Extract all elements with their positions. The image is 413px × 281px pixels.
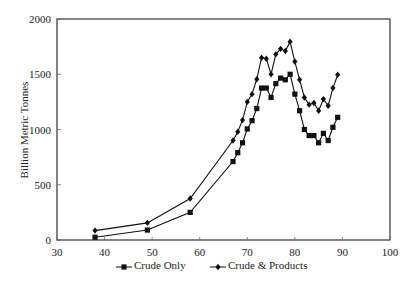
plot-frame: [57, 19, 390, 240]
data-point-square: [288, 72, 293, 77]
data-point-square: [264, 85, 269, 90]
data-point-square: [240, 140, 245, 145]
x-tick-label: 80: [289, 246, 301, 258]
data-point-square: [268, 95, 273, 100]
data-point-diamond: [240, 117, 245, 123]
y-tick-label: 2000: [29, 13, 52, 25]
data-point-diamond: [335, 72, 340, 78]
y-tick-label: 1000: [29, 124, 52, 136]
data-point-square: [254, 106, 259, 111]
data-point-square: [235, 150, 240, 155]
data-point-square: [92, 235, 97, 240]
data-point-diamond: [283, 48, 288, 54]
data-point-square: [249, 118, 254, 123]
x-tick-label: 90: [337, 246, 349, 258]
data-point-square: [230, 159, 235, 164]
data-point-diamond: [288, 38, 293, 44]
data-point-square: [278, 76, 283, 81]
data-point-diamond: [292, 58, 297, 64]
legend-marker-diamond: [215, 264, 220, 270]
data-point-square: [297, 108, 302, 113]
x-tick-label: 30: [52, 246, 64, 258]
data-point-square: [326, 138, 331, 143]
data-point-diamond: [145, 220, 150, 226]
data-point-diamond: [297, 77, 302, 83]
data-point-square: [273, 81, 278, 86]
data-point-square: [302, 127, 307, 132]
y-axis-label: Billion Metric Tonnes: [18, 82, 30, 179]
y-tick-label: 500: [35, 179, 52, 191]
data-point-square: [307, 133, 312, 138]
data-point-square: [316, 140, 321, 145]
data-point-square: [245, 126, 250, 131]
data-point-square: [311, 133, 316, 138]
data-point-square: [292, 92, 297, 97]
series-layer: [92, 38, 340, 239]
data-point-square: [259, 85, 264, 90]
data-point-diamond: [330, 85, 335, 91]
data-point-diamond: [92, 227, 97, 233]
data-point-square: [145, 227, 150, 232]
y-tick-label: 0: [46, 234, 52, 246]
x-tick-label: 70: [242, 246, 254, 258]
axes: [57, 19, 390, 240]
data-point-square: [321, 131, 326, 136]
legend-marker-square: [121, 264, 126, 269]
data-point-diamond: [254, 76, 259, 82]
data-point-square: [188, 210, 193, 215]
legend-label: Crude Only: [134, 259, 186, 271]
legend-item: Crude Only: [116, 259, 186, 271]
y-ticks: 0500100015002000: [29, 13, 61, 246]
data-point-diamond: [268, 71, 273, 77]
x-tick-label: 50: [147, 246, 159, 258]
series-crude-products: [92, 38, 340, 233]
x-tick-label: 100: [382, 246, 399, 258]
data-point-square: [330, 125, 335, 130]
x-tick-label: 40: [99, 246, 111, 258]
legend-label: Crude & Products: [228, 259, 307, 271]
y-tick-label: 1500: [29, 68, 52, 80]
data-point-square: [283, 77, 288, 82]
chart: 30405060708090100 0500100015002000 Billi…: [0, 0, 413, 281]
legend-item: Crude & Products: [210, 259, 307, 271]
data-point-square: [335, 115, 340, 120]
x-tick-label: 60: [194, 246, 206, 258]
legend: Crude OnlyCrude & Products: [116, 259, 307, 271]
series-line: [95, 42, 338, 231]
series-line: [95, 74, 338, 237]
data-point-diamond: [259, 54, 264, 60]
data-point-diamond: [264, 56, 269, 62]
